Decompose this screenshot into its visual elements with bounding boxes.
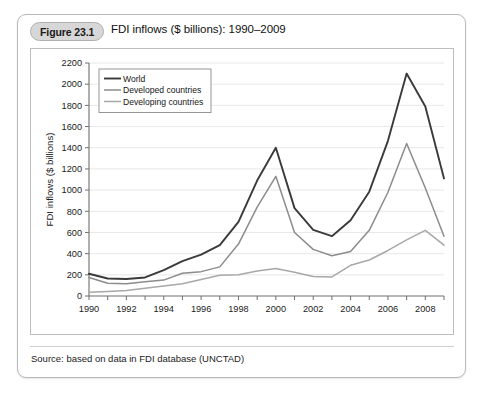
y-tick-label: 800 xyxy=(67,207,82,217)
chart-plot-area: 0200400600800100012001400160018002000220… xyxy=(30,48,454,335)
x-tick-label: 2002 xyxy=(303,304,323,314)
figure-number-badge: Figure 23.1 xyxy=(30,22,104,41)
x-tick-label: 1994 xyxy=(154,304,174,314)
x-axis-ticks-group: 1990199219941996199820002002200420062008 xyxy=(79,296,444,314)
x-tick-label: 2004 xyxy=(340,304,360,314)
y-tick-label: 2200 xyxy=(62,58,82,68)
x-tick-label: 2000 xyxy=(266,304,286,314)
x-tick-label: 1992 xyxy=(116,304,136,314)
footer-divider xyxy=(30,346,454,347)
y-tick-label: 1000 xyxy=(62,185,82,195)
x-tick-label: 2006 xyxy=(378,304,398,314)
source-note: Source: based on data in FDI database (U… xyxy=(31,353,244,364)
y-tick-label: 200 xyxy=(67,270,82,280)
y-axis-title: FDI inflows ($ billions) xyxy=(44,133,55,227)
y-tick-label: 0 xyxy=(77,291,82,301)
y-tick-label: 400 xyxy=(67,249,82,259)
fdi-inflows-line-chart: 0200400600800100012001400160018002000220… xyxy=(31,49,453,334)
y-tick-label: 1400 xyxy=(62,143,82,153)
legend-label-2: Developing countries xyxy=(123,97,203,107)
x-tick-label: 1990 xyxy=(79,304,99,314)
legend-label-0: World xyxy=(123,74,146,84)
y-tick-label: 1800 xyxy=(62,101,82,111)
y-axis-label: FDI inflows ($ billions) xyxy=(44,133,55,227)
figure-title: FDI inflows ($ billions): 1990–2009 xyxy=(111,23,286,35)
figure-card: Figure 23.1 FDI inflows ($ billions): 19… xyxy=(17,14,466,378)
y-tick-label: 2000 xyxy=(62,79,82,89)
x-tick-label: 1996 xyxy=(191,304,211,314)
x-tick-label: 1998 xyxy=(228,304,248,314)
figure-header: Figure 23.1 FDI inflows ($ billions): 19… xyxy=(18,15,465,48)
y-tick-label: 1600 xyxy=(62,122,82,132)
legend-label-1: Developed countries xyxy=(123,85,201,95)
chart-legend: WorldDeveloped countriesDeveloping count… xyxy=(99,69,211,113)
y-tick-label: 1200 xyxy=(62,164,82,174)
y-tick-label: 600 xyxy=(67,228,82,238)
x-tick-label: 2008 xyxy=(415,304,435,314)
series-line-developing-countries xyxy=(89,230,444,292)
y-axis-ticks-group: 0200400600800100012001400160018002000220… xyxy=(62,58,89,301)
